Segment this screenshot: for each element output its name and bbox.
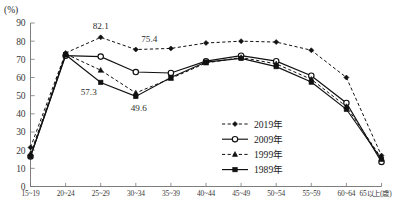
y-tick-label: 70 [16, 55, 26, 65]
series-line [31, 55, 382, 159]
series-line [31, 54, 382, 158]
y-tick-label: 90 [16, 18, 26, 28]
axis-lines-group [31, 23, 382, 187]
y-tick-label: 10 [16, 164, 26, 174]
marker-open-circle [168, 70, 173, 75]
legend-item-label: 2009年 [254, 134, 283, 145]
marker-filled-square [134, 94, 139, 99]
marker-open-circle [133, 69, 138, 74]
series-2009年 [28, 53, 384, 165]
marker-filled-square [344, 107, 349, 112]
x-tick-label: 45~49 [232, 189, 250, 198]
x-tick-label: 20~24 [57, 189, 75, 198]
legend-item-label: 1999年 [254, 149, 283, 160]
data-value-label: 57.3 [81, 87, 97, 97]
marker-filled-square [98, 80, 103, 85]
marker-filled-square [169, 75, 174, 80]
x-axis-ticks-group: 15~1920~2425~2930~3435~3940~4445~4950~54… [22, 183, 393, 198]
y-axis-unit-group: (%) [4, 5, 18, 16]
marker-filled-diamond [168, 46, 173, 51]
data-label-group: 82.175.457.349.6 [81, 21, 158, 113]
x-tick-label: 35~39 [162, 189, 180, 198]
marker-open-circle [98, 54, 103, 59]
y-tick-label: 60 [16, 73, 26, 83]
y-axis-ticks-group: 0102030405060708090 [16, 18, 35, 192]
marker-filled-diamond [98, 35, 103, 40]
marker-filled-square [309, 80, 314, 85]
marker-filled-diamond [239, 39, 244, 44]
data-value-label: 75.4 [141, 34, 157, 44]
legend: 2019年2009年1999年1989年 [222, 119, 283, 176]
marker-filled-diamond [344, 75, 349, 80]
chart-container: (%) 0102030405060708090 15~1920~2425~293… [0, 0, 393, 221]
series-1989年 [28, 53, 384, 162]
marker-filled-square [63, 53, 68, 58]
marker-filled-square [28, 154, 33, 159]
marker-filled-diamond [274, 40, 279, 45]
legend-item-label: 1989年 [254, 164, 283, 175]
marker-filled-triangle [232, 152, 237, 157]
marker-filled-diamond [133, 47, 138, 52]
y-tick-label: 80 [16, 37, 26, 47]
x-tick-label: 30~34 [127, 189, 145, 198]
data-value-label: 82.1 [93, 21, 109, 31]
legend-item-1989年[interactable]: 1989年 [222, 164, 283, 175]
y-axis-unit-label: (%) [4, 5, 18, 16]
y-tick-label: 50 [16, 91, 26, 101]
marker-filled-square [239, 56, 244, 61]
x-tick-label: 50~54 [267, 189, 285, 198]
legend-item-2009年[interactable]: 2009年 [222, 134, 283, 145]
x-tick-label: 60~64 [338, 189, 356, 198]
line-chart-plot: (%) 0102030405060708090 15~1920~2425~293… [0, 0, 393, 221]
y-tick-label: 40 [16, 109, 26, 119]
marker-filled-square [204, 60, 209, 65]
marker-open-circle [232, 137, 237, 142]
legend-item-1999年[interactable]: 1999年 [222, 149, 283, 160]
x-tick-label: 55~59 [302, 189, 320, 198]
x-tick-label: 25~29 [92, 189, 110, 198]
data-value-label: 49.6 [131, 103, 147, 113]
x-tick-label: 15~19 [22, 189, 40, 198]
marker-filled-diamond [233, 122, 238, 127]
legend-item-2019年[interactable]: 2019年 [222, 119, 283, 130]
marker-filled-square [274, 64, 279, 69]
y-tick-label: 20 [16, 146, 26, 156]
series-group [28, 35, 384, 165]
series-line [31, 56, 382, 162]
marker-filled-square [233, 167, 238, 172]
x-tick-label: 40~44 [197, 189, 215, 198]
marker-filled-square [379, 157, 384, 162]
y-tick-label: 30 [16, 127, 26, 137]
marker-filled-diamond [204, 40, 209, 45]
legend-item-label: 2019年 [254, 119, 283, 130]
x-tick-label: 65以上(歳) [360, 189, 393, 198]
